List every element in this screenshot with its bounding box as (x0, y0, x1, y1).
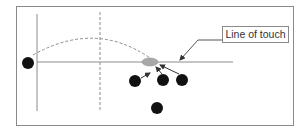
player-1 (129, 75, 141, 87)
player-2 (157, 74, 169, 86)
line-of-touch-diagram (0, 0, 308, 134)
player-4 (151, 102, 163, 114)
line-of-touch-label: Line of touch (222, 26, 289, 43)
throw-trajectory-arc (33, 38, 150, 58)
arrow-player-3 (160, 65, 179, 74)
arrow-player-2 (156, 67, 162, 74)
diagram-canvas: Line of touch (0, 0, 308, 134)
label-leader-line (180, 40, 222, 60)
player-3 (176, 74, 188, 86)
thrower-player (22, 57, 34, 69)
ball-icon (142, 58, 158, 66)
arrow-player-1 (141, 73, 150, 78)
